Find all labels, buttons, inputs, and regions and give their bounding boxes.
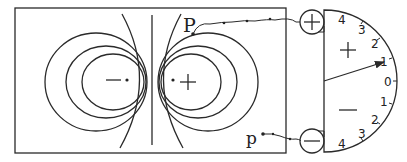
negative-electrode <box>106 78 129 81</box>
svg-text:4: 4 <box>338 137 346 151</box>
galvanometer-plus-sign <box>340 42 356 58</box>
galvanometer-scale: 4 3 2 1 0 1 2 3 4 <box>338 13 392 151</box>
svg-text:0: 0 <box>384 75 392 89</box>
galvanometer: 4 3 2 1 0 1 2 3 4 <box>324 10 397 152</box>
probe-lower-label: p <box>246 128 257 148</box>
svg-text:2: 2 <box>371 113 379 127</box>
negative-equipotentials <box>45 14 147 148</box>
svg-text:4: 4 <box>338 13 346 27</box>
svg-text:3: 3 <box>358 23 366 37</box>
positive-electrode <box>171 74 196 90</box>
probe-lower: p <box>246 128 301 148</box>
probe-upper: P <box>183 14 300 36</box>
svg-text:1: 1 <box>380 95 388 109</box>
terminal-negative <box>300 129 324 153</box>
galvanometer-needle <box>324 62 384 81</box>
terminal-positive <box>300 10 324 34</box>
equipotential-diagram: P p 4 3 2 1 0 1 2 3 <box>0 0 407 162</box>
